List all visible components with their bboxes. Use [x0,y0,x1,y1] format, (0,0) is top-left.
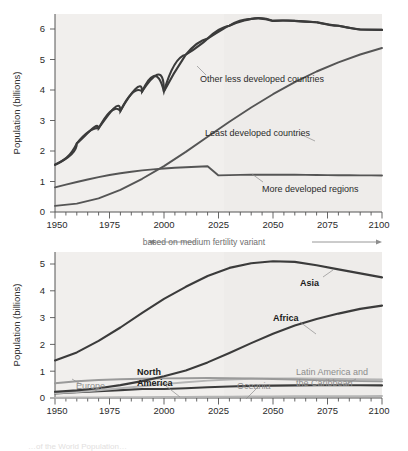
top-x-tick-labels: 1950 1975 2000 2025 2050 2075 2100 [46,219,389,230]
bottom-ytick-5: 5 [40,258,45,269]
projection-note: based on medium fertility variant [143,237,382,247]
top-projection-shading [224,14,382,212]
chart-svg: 0 1 2 3 4 5 6 Population (billions) [0,0,408,451]
bottom-y-tick-labels: 0 1 2 3 4 5 [40,258,45,403]
bottom-ytick-4: 4 [40,285,45,296]
top-ytick-4: 4 [40,84,45,95]
projection-note-text: based on medium fertility variant [143,237,266,247]
top-ytick-2: 2 [40,145,45,156]
annotation-europe: Europe [76,381,105,391]
population-projection-figure: 0 1 2 3 4 5 6 Population (billions) [0,0,408,451]
annotation-other-less-developed: Other less developed countries [200,74,325,84]
bottom-xtick-2000: 2000 [153,405,174,416]
annotation-africa: Africa [273,313,300,323]
bottom-xtick-2075: 2075 [317,405,338,416]
bottom-ytick-3: 3 [40,312,45,323]
annotation-oceania: Oceania [237,381,271,391]
bottom-xtick-2100: 2100 [368,405,389,416]
top-ytick-6: 6 [40,23,45,34]
top-y-ticks [50,29,55,212]
annotation-least-developed: Least developed countries [205,128,311,138]
bottom-xtick-1975: 1975 [99,405,120,416]
bottom-xtick-1950: 1950 [46,405,67,416]
bottom-chart: 0 1 2 3 4 5 Population (billions) [11,252,390,416]
bottom-y-ticks [50,264,55,398]
annotation-north-america-line1: North [137,367,161,377]
footer-partial-text: …of the World Population… [28,442,127,451]
annotation-more-developed: More developed regions [262,184,359,194]
arrow-right-icon [376,240,382,245]
top-xtick-2100: 2100 [368,219,389,230]
top-xtick-2075: 2075 [317,219,338,230]
bottom-x-tick-labels: 1950 1975 2000 2025 2050 2075 2100 [46,405,389,416]
top-xtick-1975: 1975 [99,219,120,230]
top-ytick-1: 1 [40,176,45,187]
top-ytick-0: 0 [40,206,45,217]
bottom-x-ticks [55,398,382,405]
top-xtick-2025: 2025 [208,219,229,230]
bottom-xtick-2025: 2025 [208,405,229,416]
annotation-north-america-line2: America [137,378,174,388]
top-chart: 0 1 2 3 4 5 6 Population (billions) [11,14,390,230]
top-ytick-5: 5 [40,54,45,65]
bottom-xtick-2050: 2050 [262,405,283,416]
annotation-latin-america-line1: Latin America and [296,367,368,377]
top-xtick-2000: 2000 [153,219,174,230]
top-xtick-2050: 2050 [262,219,283,230]
top-xtick-1950: 1950 [46,219,67,230]
top-x-ticks [55,212,382,219]
top-y-axis-title: Population (billions) [11,72,22,155]
bottom-ytick-1: 1 [40,366,45,377]
bottom-ytick-2: 2 [40,339,45,350]
bottom-y-axis-title: Population (billions) [11,284,22,367]
top-y-tick-labels: 0 1 2 3 4 5 6 [40,23,45,217]
annotation-latin-america-line2: the Caribbean [296,378,353,388]
top-ytick-3: 3 [40,115,45,126]
annotation-asia: Asia [300,278,320,288]
bottom-ytick-0: 0 [40,392,45,403]
